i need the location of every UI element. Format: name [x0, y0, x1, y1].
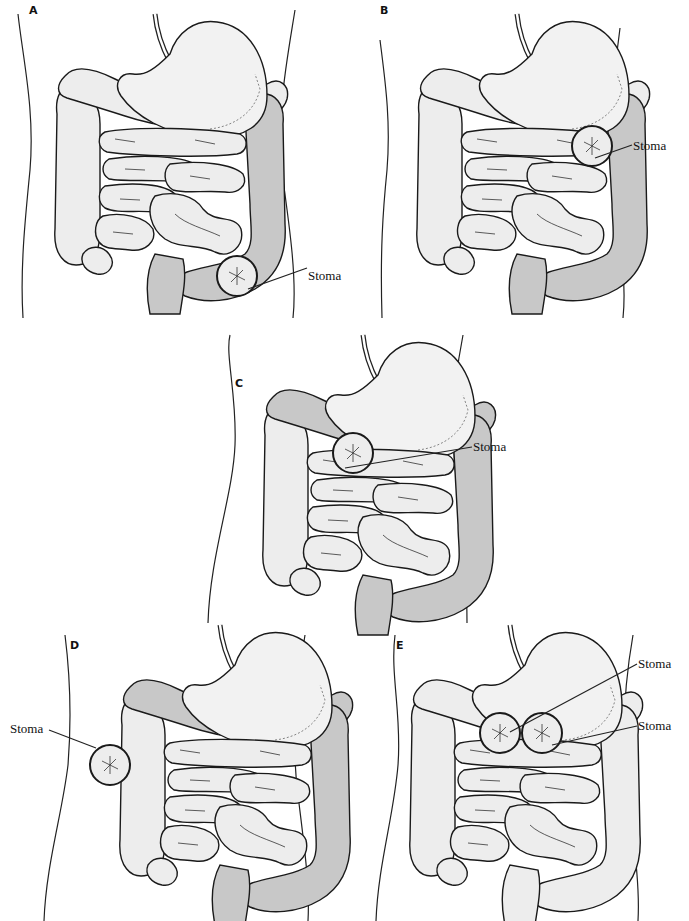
stoma-callout [15, 0, 345, 320]
stoma-label: Stoma [633, 138, 666, 154]
stoma-callout [370, 635, 689, 921]
stoma-label: Stoma [10, 721, 43, 737]
stoma-label: Stoma [473, 439, 506, 455]
stoma-callout [0, 635, 340, 921]
stoma-label: Stoma [308, 268, 341, 284]
panel-b: B Stoma [377, 0, 689, 320]
stoma-callout [205, 335, 535, 625]
stoma-label: Stoma [638, 718, 671, 734]
stoma-label: Stoma [638, 656, 671, 672]
panel-a: A Stoma [15, 0, 345, 320]
panel-c: C Stoma [205, 335, 535, 625]
panel-d: D Stoma [0, 635, 340, 921]
stoma-callout [377, 0, 689, 320]
panel-e: E Stoma Stoma [370, 635, 689, 921]
